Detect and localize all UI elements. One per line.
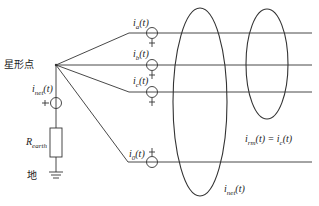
i-net-label: inet(t) <box>32 84 53 97</box>
i-rm-equation: irm(t) = ic(t) <box>245 134 292 147</box>
loop-rm <box>246 9 288 119</box>
r-earth-label: Rearth <box>26 137 47 150</box>
resistor-earth <box>50 128 62 157</box>
wire-a <box>56 33 129 65</box>
i-a-label: ia(t) <box>133 18 149 31</box>
loop-net <box>173 8 227 196</box>
wire-0 <box>56 65 128 162</box>
i-c-label: ic(t) <box>133 76 148 89</box>
wire-c <box>56 65 129 92</box>
i-net-loop-label: inet(t) <box>224 184 245 197</box>
circuit-diagram <box>0 0 319 206</box>
i-0-label: i0(t) <box>129 149 145 162</box>
star-point-label: 星形点 <box>4 60 34 70</box>
ground-label: 地 <box>27 171 37 181</box>
i-b-label: ib(t) <box>133 49 149 62</box>
